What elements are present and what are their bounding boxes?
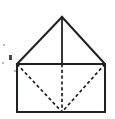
geometry-figure-canvas: [0, 0, 115, 119]
speck-left-edge: [9, 55, 12, 60]
speck-inner-left: [14, 70, 16, 72]
geometry-figure-svg: [0, 0, 115, 119]
scan-artifacts-group: [2, 44, 16, 72]
speck-upper-left: [3, 44, 5, 46]
prism-front-face: [17, 64, 105, 112]
pyramid-top-face: [17, 17, 105, 64]
speck-left-lower: [2, 62, 4, 64]
